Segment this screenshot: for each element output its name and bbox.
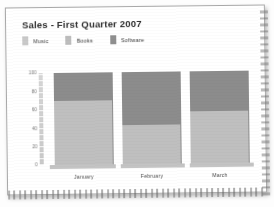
x-axis-tick: January — [55, 173, 113, 180]
stacked-bar — [122, 71, 182, 164]
legend-swatch-icon — [22, 36, 28, 45]
x-axis-tick: March — [191, 172, 249, 179]
stacked-bar — [190, 71, 250, 164]
legend-swatch-icon — [110, 35, 116, 44]
bars-group — [49, 71, 254, 165]
y-axis: 100 80 60 40 20 0 — [21, 68, 38, 165]
plot-area: 100 80 60 40 20 0 — [21, 66, 258, 181]
paper-sheet: Sales - First Quarter 2007 Music Books S… — [5, 4, 267, 195]
y-axis-tick: 60 — [32, 107, 37, 112]
y-axis-tick: 40 — [32, 126, 37, 131]
scanned-chart-image: Sales - First Quarter 2007 Music Books S… — [0, 0, 274, 207]
bar-segment-software — [54, 72, 112, 100]
y-axis-tick: 0 — [35, 162, 38, 167]
axis-gap — [185, 163, 190, 167]
y-axis-tick: 80 — [32, 89, 37, 94]
y-axis-tick: 20 — [32, 144, 37, 149]
x-axis: January February March — [50, 172, 254, 180]
legend-item-books: Books — [66, 36, 93, 45]
bar-segment-software — [190, 71, 248, 112]
legend-label: Music — [33, 38, 48, 44]
axis-gap — [116, 164, 121, 168]
bar-segment-music — [190, 111, 249, 163]
chart-title: Sales - First Quarter 2007 — [22, 18, 142, 30]
legend-item-software: Software — [110, 35, 144, 44]
chart-container: Sales - First Quarter 2007 Music Books S… — [6, 5, 266, 194]
legend-label: Software — [121, 36, 144, 42]
stacked-bar — [54, 72, 114, 165]
y-axis-line — [39, 73, 44, 165]
x-axis-tick: February — [123, 172, 181, 179]
bar-column-march — [190, 71, 249, 164]
bar-column-january — [54, 72, 113, 165]
bar-segment-music — [122, 125, 180, 164]
legend-label: Books — [77, 37, 93, 43]
legend-swatch-icon — [66, 36, 72, 45]
chart-legend: Music Books Software — [22, 35, 144, 45]
y-axis-tick: 100 — [29, 71, 37, 76]
legend-item-music: Music — [22, 36, 48, 45]
bar-column-february — [122, 71, 181, 164]
bar-segment-music — [54, 100, 113, 165]
bar-segment-software — [122, 71, 181, 125]
